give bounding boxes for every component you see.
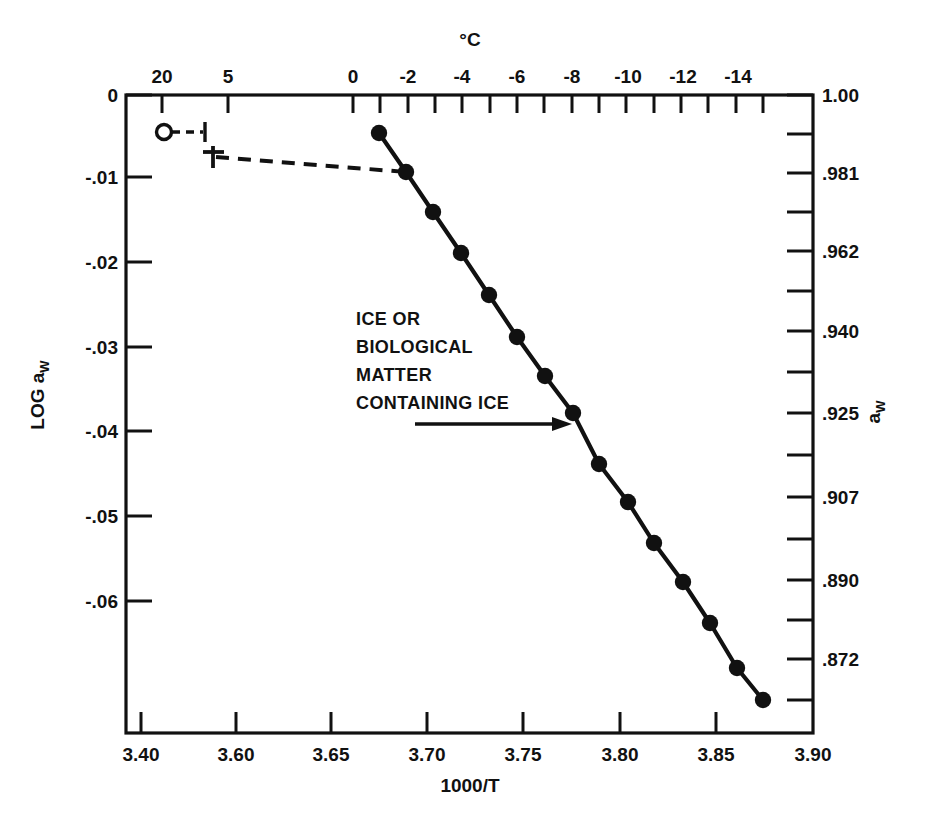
right-axis-title: aW [863, 400, 888, 424]
open-circle-marker [157, 125, 172, 140]
right-tick-label-907: .907 [822, 487, 859, 508]
top-tick-label-m6: -6 [509, 66, 526, 87]
top-tick-label-m14: -14 [724, 66, 752, 87]
left-tick-label-m06: -.06 [85, 591, 118, 612]
left-tick-label-0: 0 [107, 85, 118, 106]
left-tick-label-m04: -.04 [85, 421, 118, 442]
top-tick-label-20: 20 [151, 66, 172, 87]
y-axis-title-text: LOG aW [27, 360, 52, 430]
data-point [509, 329, 525, 345]
chart-svg: 20 5 0 -2 -4 -6 -8 -10 -12 -14 °C 0 -.01… [0, 0, 926, 830]
top-tick-label-m10: -10 [614, 66, 641, 87]
data-point [646, 535, 662, 551]
bottom-tick-label-375: 3.75 [505, 744, 542, 765]
data-point [398, 164, 414, 180]
annotation-line-3: MATTER [356, 365, 432, 385]
left-tick-label-m05: -.05 [85, 506, 118, 527]
left-tick-label-m02: -.02 [85, 252, 118, 273]
left-tick-label-m01: -.01 [85, 167, 118, 188]
data-point [371, 125, 387, 141]
annotation-line-1: ICE OR [356, 309, 420, 329]
data-point [565, 405, 581, 421]
bottom-tick-label-370: 3.70 [409, 744, 446, 765]
right-axis: 1.00 .981 .962 .940 .925 .907 .890 .872 … [787, 85, 888, 700]
y-axis-title: LOG aW [27, 360, 52, 430]
right-tick-label-890: .890 [822, 570, 859, 591]
annotation-line-2: BIOLOGICAL [356, 337, 473, 357]
bottom-tick-label-380: 3.80 [602, 744, 639, 765]
right-tick-label-962: .962 [822, 241, 859, 262]
left-axis: 0 -.01 -.02 -.03 -.04 -.05 -.06 LOG aW [27, 85, 152, 612]
plot-frame [126, 95, 813, 733]
right-tick-label-872: .872 [822, 649, 859, 670]
top-tick-label-0: 0 [348, 66, 359, 87]
bottom-axis: 3.40 3.60 3.65 3.70 3.75 3.80 3.85 3.90 … [123, 712, 832, 796]
top-tick-label-m12: -12 [669, 66, 696, 87]
frame-rect [126, 95, 813, 733]
dashed-trend-line [216, 157, 406, 172]
x-axis-title: 1000/T [440, 775, 500, 796]
data-point [453, 245, 469, 261]
series-supercooled-water [157, 122, 407, 172]
figure-canvas: 20 5 0 -2 -4 -6 -8 -10 -12 -14 °C 0 -.01… [0, 0, 926, 830]
top-axis-title: °C [459, 29, 481, 50]
annotation-arrow-icon [415, 417, 572, 431]
data-point [729, 660, 745, 676]
right-tick-label-925: .925 [822, 403, 859, 424]
left-tick-label-m03: -.03 [85, 337, 118, 358]
data-point [755, 692, 771, 708]
top-tick-label-m4: -4 [454, 66, 471, 87]
bottom-tick-label-385: 3.85 [698, 744, 735, 765]
right-tick-label-981: .981 [822, 163, 859, 184]
series-ice-line [371, 125, 771, 708]
data-point [620, 494, 636, 510]
bottom-tick-label-340: 3.40 [123, 744, 160, 765]
top-tick-label-m2: -2 [400, 66, 417, 87]
data-point [675, 574, 691, 590]
data-point [537, 368, 553, 384]
data-point [481, 287, 497, 303]
right-tick-label-940: .940 [822, 321, 859, 342]
top-tick-label-5: 5 [223, 66, 234, 87]
bottom-tick-label-390: 3.90 [795, 744, 832, 765]
top-axis: 20 5 0 -2 -4 -6 -8 -10 -12 -14 °C [151, 29, 763, 113]
top-tick-label-m8: -8 [564, 66, 581, 87]
right-axis-title-text: aW [863, 400, 888, 424]
data-point [425, 204, 441, 220]
right-tick-label-1: 1.00 [822, 85, 859, 106]
annotation-line-4: CONTAINING ICE [356, 393, 509, 413]
bottom-tick-label-360: 3.60 [218, 744, 255, 765]
data-point [591, 456, 607, 472]
bottom-tick-label-365: 3.65 [313, 744, 350, 765]
data-point [702, 615, 718, 631]
